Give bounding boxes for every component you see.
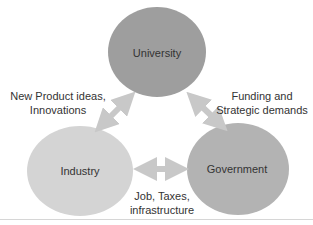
industry-university-arrow <box>103 100 127 124</box>
bottom-divider <box>0 219 313 220</box>
triple-helix-diagram: University Industry Government New Produ… <box>0 0 313 225</box>
edge-label-line: Strategic demands <box>216 103 308 117</box>
government-university-edge-label: Funding and Strategic demands <box>216 89 308 117</box>
university-label: University <box>133 47 181 59</box>
edge-label-line: New Product ideas, <box>10 89 105 103</box>
government-label: Government <box>207 163 268 175</box>
edge-label-line: Funding and <box>216 89 308 103</box>
industry-government-edge-label: Job, Taxes, infrastructure <box>130 189 194 217</box>
industry-label: Industry <box>60 165 99 177</box>
edge-label-line: Job, Taxes, <box>130 189 194 203</box>
edge-label-line: Innovations <box>10 103 105 117</box>
edge-label-line: infrastructure <box>130 203 194 217</box>
industry-university-edge-label: New Product ideas, Innovations <box>10 89 105 117</box>
